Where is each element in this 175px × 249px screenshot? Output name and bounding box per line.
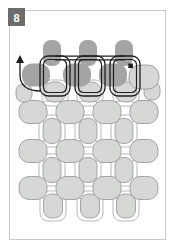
bead-dark bbox=[43, 40, 61, 66]
bead-light bbox=[93, 140, 121, 163]
bead-dark bbox=[115, 40, 133, 66]
bead-dark bbox=[22, 64, 50, 87]
bead-light bbox=[79, 119, 97, 144]
bead-light bbox=[19, 140, 47, 163]
bead-light bbox=[115, 119, 133, 144]
bead-light bbox=[130, 140, 158, 163]
bead-dark bbox=[63, 64, 91, 87]
bead-light bbox=[19, 101, 47, 124]
step-badge-number: 8 bbox=[13, 12, 19, 24]
bead-light bbox=[56, 101, 84, 124]
bead-light bbox=[115, 158, 133, 183]
bead-light bbox=[93, 101, 121, 124]
bead-light bbox=[56, 140, 84, 163]
figure-8-panel: 8 bbox=[0, 0, 175, 249]
bead-diagram: 8 bbox=[0, 0, 175, 249]
bead-light bbox=[56, 177, 84, 200]
bead-light bbox=[79, 158, 97, 183]
bead-light bbox=[43, 158, 61, 183]
bead-light bbox=[130, 177, 158, 200]
bead-light bbox=[130, 101, 158, 124]
bead-light bbox=[117, 194, 136, 218]
bead-light bbox=[43, 119, 61, 144]
bead-dark bbox=[79, 40, 97, 66]
bead-light bbox=[129, 65, 159, 89]
thread-end-marker-icon bbox=[128, 64, 133, 69]
step-badge: 8 bbox=[8, 8, 25, 26]
bead-light bbox=[19, 177, 47, 200]
